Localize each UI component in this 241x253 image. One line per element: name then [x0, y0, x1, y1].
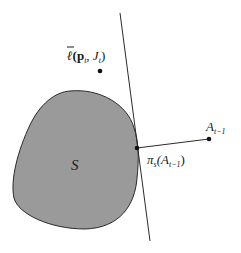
projection-label: πs(At−1) [147, 152, 185, 169]
point-projection [135, 146, 140, 151]
point-a-prev [207, 137, 212, 142]
region-label: S [71, 157, 79, 173]
diagram-canvas: S ℓ(pt, Jt) At−1 πs(At−1) [0, 0, 241, 253]
point-ell [98, 69, 103, 74]
ell-label: ℓ(pt, Jt) [67, 48, 105, 65]
projection-segment [137, 139, 209, 148]
a-prev-label: At−1 [205, 119, 226, 136]
